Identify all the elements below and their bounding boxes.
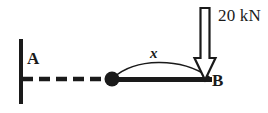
support-label-a: A	[27, 50, 39, 67]
deflection-arc	[113, 62, 209, 78]
distance-label-x: x	[150, 46, 158, 61]
hinge-node	[105, 72, 120, 87]
free-end-label-b: B	[212, 72, 223, 89]
beam-diagram-canvas: A B x 20 kN	[0, 0, 268, 113]
point-load-arrow-icon	[195, 8, 216, 80]
point-load-label: 20 kN	[218, 7, 261, 24]
